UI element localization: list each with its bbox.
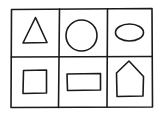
ellipse-shape <box>116 24 144 41</box>
grid-row-divider <box>11 57 152 58</box>
shape-grid-diagram <box>0 0 160 114</box>
square-shape <box>23 70 47 94</box>
circle-shape <box>66 20 97 51</box>
rectangle-shape <box>67 74 101 91</box>
triangle-shape <box>23 18 47 44</box>
grid-column-divider-2 <box>107 9 108 107</box>
grid-column-divider-1 <box>59 9 60 108</box>
pentagon-house-shape <box>117 61 144 97</box>
